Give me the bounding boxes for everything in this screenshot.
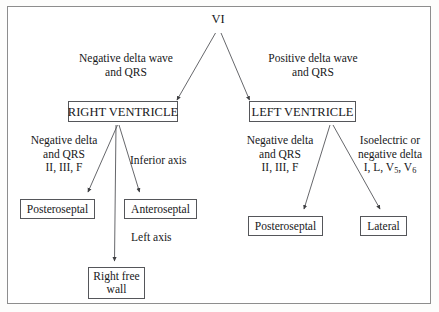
node-lv-posteroseptal[interactable]: Posteroseptal xyxy=(248,216,323,236)
edge-label-rv-inferior-axis: Inferior axis xyxy=(130,154,214,168)
edge-label-line2: and QRS xyxy=(292,66,334,78)
node-left-ventricle-label: LEFT VENTRICLE xyxy=(252,105,354,119)
node-right-ventricle[interactable]: RIGHT VENTRICLE xyxy=(68,101,178,122)
node-right-free-wall-line1: Right free xyxy=(93,270,139,282)
node-rv-posteroseptal-label: Posteroseptal xyxy=(27,203,88,216)
edge-label-line1: Positive delta wave xyxy=(268,52,357,64)
criteria-line1: Negative delta xyxy=(31,134,98,146)
left-axis-label: Left axis xyxy=(131,231,172,243)
edge-label-lv-lateral-criteria: Isoelectric or negative delta I, L, V5, … xyxy=(344,134,436,176)
edge-label-negative-delta-wave-qrs: Negative delta wave and QRS xyxy=(56,52,196,79)
node-left-ventricle[interactable]: LEFT VENTRICLE xyxy=(249,101,356,122)
node-rv-right-free-wall[interactable]: Right free wall xyxy=(88,267,145,299)
criteria-line2: negative delta xyxy=(358,148,422,160)
edge-label-positive-delta-wave-qrs: Positive delta wave and QRS xyxy=(243,52,383,79)
inferior-axis-label: Inferior axis xyxy=(130,154,187,166)
criteria-line3-pre: I, L, V xyxy=(364,161,394,173)
node-rv-anteroseptal-label: Anteroseptal xyxy=(131,203,190,216)
criteria-line3: I, L, V5, V6 xyxy=(364,161,417,173)
criteria-line3-mid: , V xyxy=(398,161,412,173)
criteria-line3-sub2: 6 xyxy=(412,166,416,175)
edge-label-rv-posteroseptal-criteria: Negative delta and QRS II, III, F xyxy=(12,134,116,175)
edge-label-rv-left-axis: Left axis xyxy=(131,231,201,245)
node-rv-posteroseptal[interactable]: Posteroseptal xyxy=(20,199,95,219)
node-rv-anteroseptal[interactable]: Anteroseptal xyxy=(124,199,197,219)
edge-label-line2: and QRS xyxy=(105,66,147,78)
criteria-line1: Negative delta xyxy=(247,134,314,146)
criteria-line3: II, III, F xyxy=(45,161,82,173)
criteria-line1: Isoelectric or xyxy=(360,134,420,146)
criteria-line2: and QRS xyxy=(259,148,301,160)
node-right-free-wall-line2: wall xyxy=(107,283,127,295)
criteria-line2: and QRS xyxy=(43,148,85,160)
node-right-ventricle-label: RIGHT VENTRICLE xyxy=(68,105,178,119)
edge-label-lv-posteroseptal-criteria: Negative delta and QRS II, III, F xyxy=(228,134,332,175)
node-lv-posteroseptal-label: Posteroseptal xyxy=(255,220,316,233)
node-lv-lateral-label: Lateral xyxy=(367,220,400,233)
node-lv-lateral[interactable]: Lateral xyxy=(360,216,407,236)
diagram-canvas: VI Negative delta wave and QRS Positive … xyxy=(0,0,439,312)
edge-label-line1: Negative delta wave xyxy=(79,52,173,64)
root-node-label: VI xyxy=(199,12,237,27)
criteria-line3: II, III, F xyxy=(261,161,298,173)
